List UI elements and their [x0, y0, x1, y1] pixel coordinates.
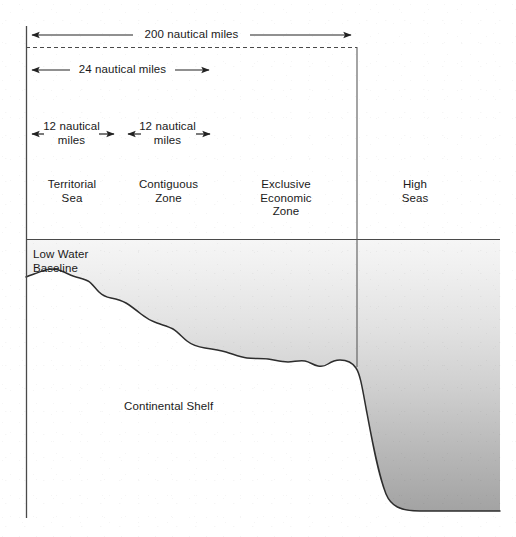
zone-label-contiguous-zone: Contiguous Zone [122, 178, 215, 205]
feature-label-continental-shelf: Continental Shelf [124, 400, 264, 414]
dimension-label-12nm-territorial: 12 nautical miles [38, 120, 105, 147]
zone-label-high-seas: High Seas [375, 178, 455, 205]
ocean-water-mass [26, 239, 500, 511]
zone-label-territorial-sea: Territorial Sea [26, 178, 118, 205]
zone-label-exclusive-economic-zone: Exclusive Economic Zone [238, 178, 334, 219]
maritime-zones-diagram: 200 nautical miles 24 nautical miles 12 … [0, 0, 516, 537]
dimension-label-12nm-contiguous: 12 nautical miles [134, 120, 201, 147]
feature-label-low-water-baseline: Low Water Baseline [33, 248, 143, 275]
dimension-label-200nm: 200 nautical miles [133, 28, 250, 42]
dimension-label-24nm: 24 nautical miles [70, 63, 175, 77]
